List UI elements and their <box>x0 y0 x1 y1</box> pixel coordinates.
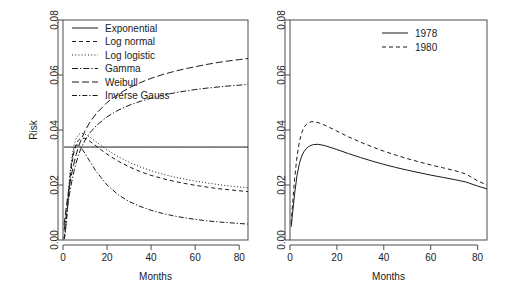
plot-frame <box>290 20 487 240</box>
legend-label-1978: 1978 <box>415 28 438 39</box>
plot-frame <box>63 20 248 240</box>
curve-1980 <box>291 122 487 224</box>
x-tick-label: 80 <box>234 252 246 263</box>
x-tick-label: 0 <box>287 252 293 263</box>
legend-label-1980: 1980 <box>415 42 438 53</box>
curve-1978 <box>291 144 487 227</box>
legend-label-log-normal: Log normal <box>105 36 155 47</box>
curve-log-normal <box>64 138 248 238</box>
x-tick-label: 20 <box>331 252 343 263</box>
x-tick-label: 40 <box>146 252 158 263</box>
panel-left: 0.000.020.040.060.08020406080MonthsRiskE… <box>0 0 257 300</box>
y-axis-title: Risk <box>28 119 39 139</box>
x-tick-label: 60 <box>425 252 437 263</box>
legend-label-weibull: Weibull <box>105 77 138 88</box>
x-tick-label: 80 <box>472 252 484 263</box>
x-axis-title: Months <box>372 271 405 282</box>
curve-inverse-gauss <box>64 145 248 239</box>
x-tick-label: 20 <box>101 252 113 263</box>
right-plot-svg: 0.000.020.040.060.08020406080Months19781… <box>257 0 514 300</box>
panel-right: 0.000.020.040.060.08020406080Months19781… <box>257 0 514 300</box>
x-tick-label: 0 <box>60 252 66 263</box>
legend-label-gamma: Gamma <box>105 63 141 74</box>
curve-weibull <box>64 59 248 225</box>
x-tick-label: 40 <box>378 252 390 263</box>
left-plot-svg: 0.000.020.040.060.08020406080MonthsRiskE… <box>0 0 257 300</box>
legend-label-log-logistic: Log logistic <box>105 50 155 61</box>
legend-label-exponential: Exponential <box>105 23 157 34</box>
x-axis-title: Months <box>139 271 172 282</box>
legend-label-inverse-gauss: Inverse Gauss <box>105 90 169 101</box>
figure-container: 0.000.020.040.060.08020406080MonthsRiskE… <box>0 0 514 300</box>
x-tick-label: 60 <box>190 252 202 263</box>
curve-gamma <box>64 84 248 230</box>
